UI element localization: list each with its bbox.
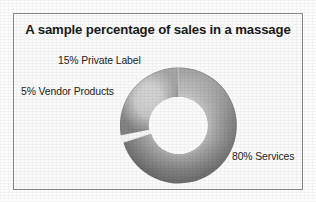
donut-chart bbox=[120, 67, 237, 184]
slice-label-services: 80% Services bbox=[232, 151, 294, 162]
slice-label-vendor-products: 5% Vendor Products bbox=[21, 86, 114, 97]
chart-figure: A sample percentage of sales in a massag… bbox=[0, 0, 316, 202]
slice-label-private-label: 15% Private Label bbox=[58, 55, 141, 66]
donut-hole bbox=[150, 97, 207, 154]
chart-title: A sample percentage of sales in a massag… bbox=[0, 22, 316, 37]
donut-svg bbox=[120, 67, 237, 184]
